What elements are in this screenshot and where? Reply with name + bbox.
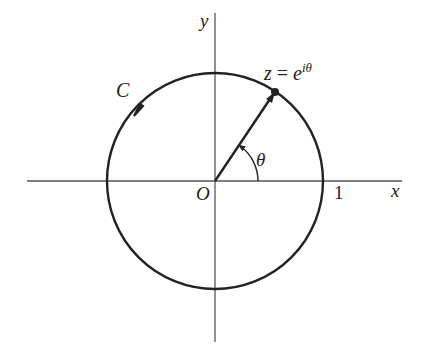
y-axis-label: y — [198, 10, 209, 31]
unit-circle-diagram: y x O 1 C θ z = eiθ — [0, 0, 423, 352]
angle-label: θ — [256, 149, 265, 170]
x-axis-label: x — [390, 180, 400, 201]
point-label-exponent: iθ — [302, 60, 313, 75]
point-label-z: z — [263, 62, 272, 84]
unit-tick-label: 1 — [334, 182, 344, 203]
contour-label: C — [116, 79, 130, 101]
point-label-base: e — [293, 62, 302, 84]
point-label-equals: = — [272, 62, 293, 84]
point-label: z = eiθ — [263, 60, 313, 84]
origin-label: O — [196, 183, 210, 204]
contour-direction-arrow-icon — [134, 104, 143, 116]
point-z — [271, 88, 279, 96]
